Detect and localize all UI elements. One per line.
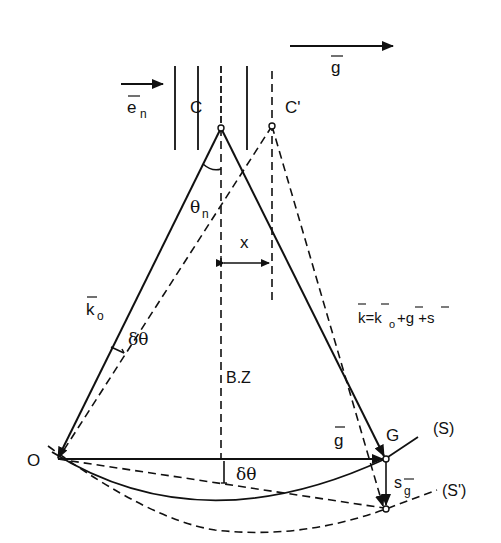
x-dimension: x	[221, 233, 269, 267]
label-S: (S)	[433, 420, 454, 437]
en-label: e n	[127, 96, 147, 121]
label-C: C	[190, 98, 202, 117]
svg-text:θ: θ	[190, 197, 200, 217]
svg-text:k=k: k=k	[358, 309, 382, 326]
lattice-planes	[175, 66, 247, 150]
g-label-mid: g	[334, 427, 345, 450]
svg-text:o: o	[389, 318, 395, 330]
ewald-sphere-S	[52, 437, 418, 500]
delta-theta-upper-label: δθ	[128, 329, 148, 349]
point-C-prime	[269, 123, 275, 129]
label-S-prime: (S')	[442, 482, 466, 499]
k0-prime-dashed	[60, 126, 272, 456]
point-G	[383, 456, 389, 462]
label-C-prime: C'	[285, 98, 301, 117]
delta-theta-lower-label: δθ	[236, 464, 256, 484]
theta-n-arc	[203, 164, 221, 170]
svg-text:o: o	[97, 309, 104, 323]
svg-text:g: g	[331, 58, 340, 77]
g-label-top: g	[331, 56, 343, 77]
svg-text:+g +s: +g +s	[397, 309, 435, 326]
label-G: G	[386, 426, 399, 445]
k-equation: k=k o +g +s	[358, 304, 449, 330]
svg-text:n: n	[140, 107, 147, 121]
label-bz: B.Z	[226, 369, 251, 386]
theta-n-label: θ n	[190, 197, 209, 221]
svg-text:g: g	[404, 484, 411, 498]
k-vector	[221, 128, 384, 456]
svg-text:k: k	[86, 300, 95, 319]
k0-vector	[58, 128, 221, 458]
sg-label: s g	[394, 474, 414, 498]
k0-label: k o	[86, 297, 104, 323]
svg-text:x: x	[240, 233, 249, 252]
svg-text:g: g	[334, 431, 343, 450]
svg-text:n: n	[202, 207, 209, 221]
svg-text:s: s	[394, 474, 402, 491]
point-C	[218, 125, 224, 131]
label-O: O	[27, 451, 40, 470]
svg-text:e: e	[127, 98, 136, 117]
point-G-prime	[383, 506, 389, 512]
ewald-diagram: g e n C C' B.Z θ n x	[0, 0, 501, 543]
